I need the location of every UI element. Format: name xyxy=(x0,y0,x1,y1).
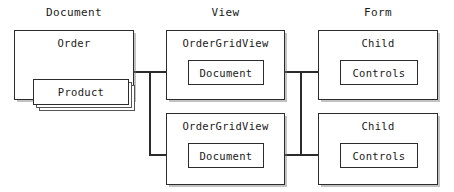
connector-left-trunk xyxy=(149,71,151,156)
node-product: Product xyxy=(33,79,129,105)
node-controls-bottom: Controls xyxy=(340,143,418,168)
node-child-top-label: Child xyxy=(319,37,437,50)
node-child-bottom-label: Child xyxy=(319,120,437,133)
node-document-bottom: Document xyxy=(188,143,264,168)
connector-right-trunk xyxy=(300,71,302,156)
column-heading-form: Form xyxy=(318,5,438,20)
architecture-diagram: Document View Form Order Product OrderGr… xyxy=(0,0,454,192)
node-order-label: Order xyxy=(15,37,133,50)
column-heading-view: View xyxy=(166,5,285,20)
node-document-top: Document xyxy=(188,60,264,85)
column-heading-document: Document xyxy=(14,5,134,20)
node-order: Order Product xyxy=(14,30,134,100)
node-ordergridview-bottom-label: OrderGridView xyxy=(167,120,284,133)
node-ordergridview-top-label: OrderGridView xyxy=(167,37,284,50)
node-controls-top: Controls xyxy=(340,60,418,85)
